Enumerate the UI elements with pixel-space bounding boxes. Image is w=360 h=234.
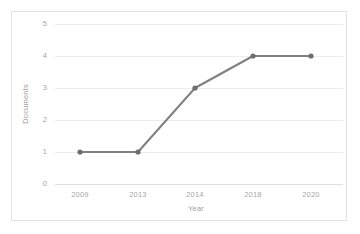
data-point-2009 bbox=[77, 149, 82, 154]
series-line-documents bbox=[80, 56, 311, 152]
y-axis-title: Documents bbox=[21, 84, 30, 124]
y-tick-label-1: 1 bbox=[43, 147, 47, 156]
gridlines bbox=[55, 25, 343, 185]
x-tick-label-2018: 2018 bbox=[244, 190, 262, 199]
x-tick-label-2013: 2013 bbox=[129, 190, 147, 199]
x-tick-label-2020: 2020 bbox=[302, 190, 320, 199]
y-axis-tick-labels: 5 4 3 2 1 0 bbox=[43, 19, 47, 188]
y-tick-label-5: 5 bbox=[43, 19, 47, 28]
x-axis-title: Year bbox=[188, 204, 204, 213]
data-point-2018 bbox=[250, 53, 255, 58]
y-tick-label-4: 4 bbox=[43, 51, 47, 60]
y-tick-label-0: 0 bbox=[43, 179, 47, 188]
data-point-2014 bbox=[192, 85, 197, 90]
y-tick-label-2: 2 bbox=[43, 115, 47, 124]
x-tick-label-2009: 2009 bbox=[71, 190, 89, 199]
x-axis-tick-labels: 2009 2013 2014 2018 2020 bbox=[71, 190, 320, 199]
data-point-2013 bbox=[135, 149, 140, 154]
x-tick-label-2014: 2014 bbox=[186, 190, 204, 199]
chart-canvas: 5 4 3 2 1 0 Documents 2009 2013 2014 201… bbox=[0, 0, 360, 234]
data-point-2020 bbox=[308, 53, 313, 58]
line-chart: 5 4 3 2 1 0 Documents 2009 2013 2014 201… bbox=[0, 0, 360, 234]
series-markers bbox=[77, 53, 313, 154]
y-tick-label-3: 3 bbox=[43, 83, 47, 92]
